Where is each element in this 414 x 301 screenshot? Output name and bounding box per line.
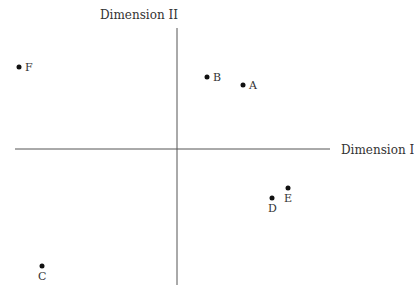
point-label-e: E bbox=[284, 193, 292, 204]
data-point-e bbox=[286, 186, 291, 191]
data-point-a bbox=[241, 83, 246, 88]
x-axis-label: Dimension I bbox=[341, 144, 414, 156]
data-point-b bbox=[205, 75, 210, 80]
data-point-c bbox=[40, 264, 45, 269]
point-label-c: C bbox=[38, 271, 46, 282]
y-axis-label: Dimension II bbox=[100, 9, 178, 21]
data-point-f bbox=[17, 65, 22, 70]
point-label-a: A bbox=[249, 80, 257, 91]
data-point-d bbox=[270, 196, 275, 201]
point-label-f: F bbox=[25, 62, 33, 73]
point-label-d: D bbox=[268, 203, 277, 214]
point-label-b: B bbox=[213, 72, 221, 83]
